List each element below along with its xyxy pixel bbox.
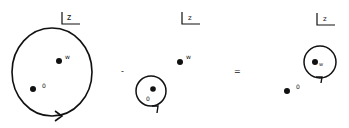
equals-operator: = [234,67,241,76]
z-plane-label: z [62,12,80,24]
large-contour [12,28,92,116]
point-0: 0 [146,86,156,102]
minus-operator: - [121,67,124,76]
svg-text:w: w [186,53,191,60]
arrow-icon [152,106,158,113]
svg-text:z: z [67,13,71,22]
point-0: 0 [30,82,46,92]
svg-text:z: z [323,15,327,23]
svg-text:0: 0 [42,82,46,89]
panel-1: z w 0 [12,12,92,121]
svg-text:z: z [188,14,192,22]
small-contour [136,76,166,106]
svg-text:0: 0 [296,83,300,90]
point-w: w [177,53,191,65]
point-w: w [312,59,323,67]
svg-text:w: w [65,53,70,60]
z-plane-label: z [182,12,200,24]
z-plane-label: z [317,13,335,25]
svg-text:0: 0 [146,95,150,102]
panel-2: z w 0 [136,12,200,113]
svg-text:w: w [319,61,323,67]
panel-3: z w 0 [284,13,336,94]
point-w: w [56,53,70,64]
point-0: 0 [284,83,300,94]
contour-diagram: z w 0 - z w [0,0,349,128]
